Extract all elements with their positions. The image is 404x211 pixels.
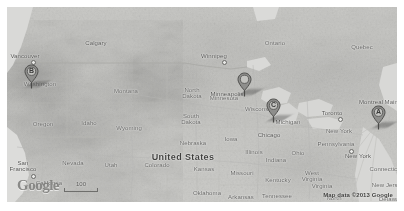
state-label-9: North Dakota bbox=[182, 87, 202, 100]
state-label-12: Kansas bbox=[194, 166, 215, 172]
map-marker-pin-icon-b[interactable]: B bbox=[23, 64, 40, 89]
state-label-24: Tennessee bbox=[262, 193, 292, 199]
state-label-11: Nebraska bbox=[180, 140, 206, 146]
city-label-4: Chicago bbox=[258, 132, 281, 138]
state-label-3: Idaho bbox=[81, 120, 97, 126]
map-canvas[interactable]: United StatesOntarioQuebecWashingtonOreg… bbox=[7, 7, 397, 202]
marker-label: A bbox=[370, 108, 387, 115]
city-dot-icon-2 bbox=[222, 60, 227, 65]
pin-shape-icon bbox=[236, 72, 253, 97]
marker-label: B bbox=[23, 67, 40, 74]
google-logo[interactable]: Google bbox=[17, 178, 59, 194]
city-label-1: Calgary bbox=[85, 40, 106, 46]
state-label-22: Ohio bbox=[291, 150, 304, 156]
state-label-23: Kentucky bbox=[265, 177, 290, 183]
city-label-7: New York bbox=[345, 153, 371, 159]
state-label-15: Iowa bbox=[224, 136, 237, 142]
scale-bar-label: 100 bbox=[64, 181, 98, 187]
state-label-16: Missouri bbox=[230, 170, 253, 176]
city-label-8: San Francisco bbox=[10, 160, 37, 173]
city-label-0: Vancouver bbox=[10, 53, 39, 59]
city-label-2: Winnipeg bbox=[201, 53, 227, 59]
state-label-26: Virginia bbox=[312, 183, 333, 189]
state-label-32: New Jersey bbox=[372, 182, 397, 188]
map-marker-pin-icon-c[interactable]: C bbox=[265, 98, 282, 123]
map-widget[interactable]: United StatesOntarioQuebecWashingtonOreg… bbox=[0, 0, 404, 211]
state-label-19: Illinois bbox=[245, 149, 262, 155]
state-label-6: Utah bbox=[104, 162, 117, 168]
state-label-17: Arkansas bbox=[228, 194, 254, 200]
state-label-27: Pennsylvania bbox=[318, 141, 355, 147]
map-marker-pin-icon-d[interactable] bbox=[236, 72, 253, 97]
state-label-10: South Dakota bbox=[181, 113, 201, 126]
map-attribution: Map data ©2013 Google bbox=[323, 192, 393, 198]
state-label-4: Wyoming bbox=[116, 125, 142, 131]
marker-label: C bbox=[265, 101, 282, 108]
google-logo-text: Google bbox=[17, 177, 59, 194]
city-dot-icon-7 bbox=[349, 149, 354, 154]
province-label-0: Ontario bbox=[265, 40, 285, 46]
state-label-5: Nevada bbox=[62, 160, 83, 166]
state-label-25: West Virginia bbox=[302, 170, 323, 183]
province-label-1: Quebec bbox=[351, 44, 373, 50]
state-label-31: Connecticut bbox=[370, 166, 397, 172]
state-label-2: Montana bbox=[114, 88, 138, 94]
state-label-1: Oregon bbox=[33, 121, 54, 127]
state-label-8: Colorado bbox=[144, 162, 169, 168]
state-label-13: Oklahoma bbox=[193, 190, 221, 196]
scale-bar-line bbox=[64, 188, 98, 192]
state-label-29: New York bbox=[326, 128, 352, 134]
borders-layer bbox=[7, 7, 397, 202]
city-dot-icon-5 bbox=[338, 117, 343, 122]
map-marker-pin-icon-a[interactable]: A bbox=[370, 105, 387, 130]
state-label-21: Indiana bbox=[266, 157, 286, 163]
city-label-5: Toronto bbox=[322, 110, 343, 116]
scale-bar: 100 bbox=[64, 181, 98, 192]
